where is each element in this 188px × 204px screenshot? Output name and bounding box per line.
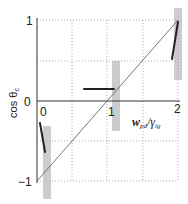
- data-segments: [40, 22, 178, 152]
- y-label-sub: c: [13, 88, 20, 92]
- y-tick-1: 1: [26, 14, 33, 28]
- y-axis-label: cos θc: [7, 88, 20, 118]
- band-near-x0: [43, 126, 51, 199]
- x-label-gamma: /γ: [146, 115, 155, 129]
- x-tick-0: 0: [40, 105, 47, 119]
- gray-bands: [43, 8, 182, 199]
- x-tick-labels: 0 1 2: [40, 102, 181, 119]
- chart: 1 0 −1 0 1 2 cos θc wpd/γlg: [0, 0, 188, 204]
- y-tick-labels: 1 0 −1: [18, 14, 33, 189]
- y-tick-neg1: −1: [18, 175, 32, 189]
- svg-text:wpd/γlg: wpd/γlg: [132, 115, 161, 130]
- svg-text:cos θc: cos θc: [7, 88, 20, 118]
- band-near-x1: [112, 61, 120, 131]
- y-label-main: cos θ: [7, 92, 19, 118]
- x-tick-1: 1: [108, 105, 115, 119]
- x-axis-label: wpd/γlg: [132, 115, 161, 130]
- x-tick-2: 2: [174, 102, 181, 116]
- x-label-gamma-sub: lg: [155, 122, 161, 130]
- y-tick-0: 0: [24, 95, 31, 109]
